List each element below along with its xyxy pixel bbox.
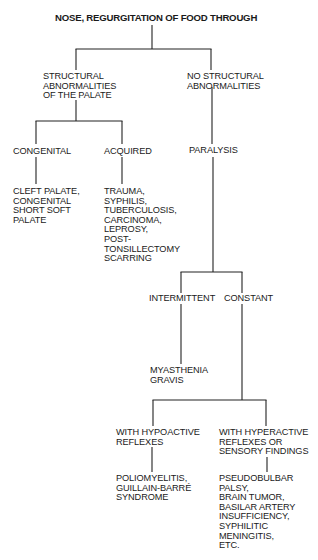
hyperactive-reflexes-node: WITH HYPERACTIVE REFLEXES OR SENSORY FIN… <box>219 428 308 457</box>
hyperactive-causes-node: PSEUDOBULBAR PALSY, BRAIN TUMOR, BASILAR… <box>219 474 295 551</box>
no-structural-abnormalities-node: NO STRUCTURAL ABNORMALITIES <box>187 72 264 91</box>
congenital-causes-node: CLEFT PALATE, CONGENITAL SHORT SOFT PALA… <box>13 187 80 225</box>
structural-abnormalities-node: STRUCTURAL ABNORMALITIES OF THE PALATE <box>43 72 116 101</box>
acquired-node: ACQUIRED <box>104 147 152 157</box>
acquired-causes-node: TRAUMA, SYPHILIS, TUBERCULOSIS, CARCINOM… <box>104 187 180 264</box>
paralysis-node: PARALYSIS <box>189 146 238 156</box>
root-node: NOSE, REGURGITATION OF FOOD THROUGH <box>55 13 257 23</box>
hypoactive-reflexes-node: WITH HYPOACTIVE REFLEXES <box>116 428 200 447</box>
myasthenia-gravis-node: MYASTHENIA GRAVIS <box>150 366 208 385</box>
constant-node: CONSTANT <box>224 294 273 304</box>
congenital-node: CONGENITAL <box>13 147 71 157</box>
hypoactive-causes-node: POLIOMYELITIS, GUILLAIN-BARRÉ SYNDROME <box>116 474 191 503</box>
intermittent-node: INTERMITTENT <box>149 294 215 304</box>
flowchart: NOSE, REGURGITATION OF FOOD THROUGH STRU… <box>0 0 318 560</box>
